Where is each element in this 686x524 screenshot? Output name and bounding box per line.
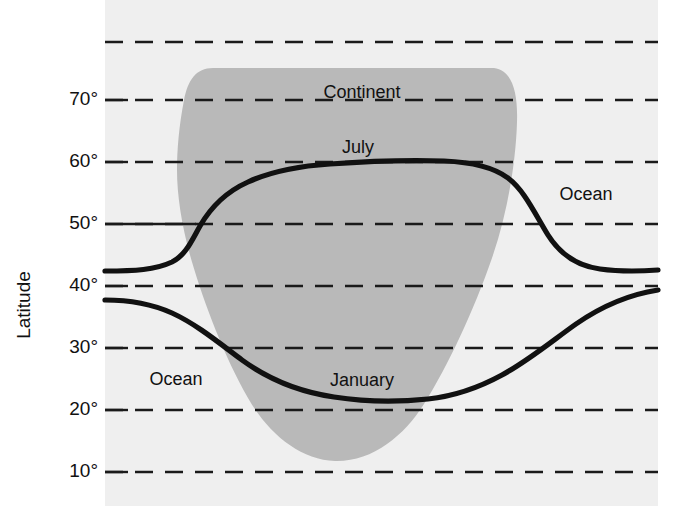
y-axis-tick-labels: 70° 60° 50° 40° 30° 20° 10°: [69, 88, 98, 481]
latitude-chart: 70° 60° 50° 40° 30° 20° 10° Latitude Con…: [0, 0, 686, 524]
y-tick-label-70: 70°: [69, 88, 98, 109]
continent-label: Continent: [323, 82, 400, 102]
y-tick-label-50: 50°: [69, 212, 98, 233]
ocean-right-label: Ocean: [559, 184, 612, 204]
y-tick-label-20: 20°: [69, 398, 98, 419]
january-label: January: [330, 370, 394, 390]
y-tick-label-40: 40°: [69, 274, 98, 295]
ocean-left-label: Ocean: [149, 369, 202, 389]
y-tick-label-30: 30°: [69, 336, 98, 357]
y-tick-label-60: 60°: [69, 150, 98, 171]
y-axis-title: Latitude: [13, 271, 34, 339]
july-label: July: [342, 137, 374, 157]
y-tick-label-10: 10°: [69, 460, 98, 481]
figure-container: 70° 60° 50° 40° 30° 20° 10° Latitude Con…: [0, 0, 686, 524]
